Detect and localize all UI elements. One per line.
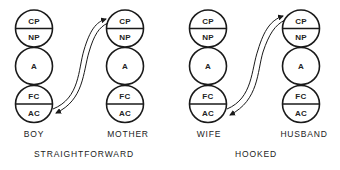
wife-np: NP — [202, 33, 214, 42]
ego-state-diagrams — [0, 0, 340, 170]
label-wife: WIFE — [197, 129, 221, 139]
husband-np: NP — [295, 33, 307, 42]
mother-cp: CP — [119, 17, 131, 26]
arrow-cp-to-ac — [230, 20, 285, 115]
arrow-ac-to-cp — [53, 19, 106, 109]
boy-np: NP — [28, 33, 40, 42]
label-boy: BOY — [24, 129, 44, 139]
arrow-ac-to-cp — [227, 16, 283, 109]
caption-hooked: HOOKED — [235, 149, 277, 159]
caption-straightforward: STRAIGHTFORWARD — [34, 149, 134, 159]
mother-ac: AC — [119, 109, 131, 118]
wife-ac: AC — [202, 109, 214, 118]
mother-np: NP — [119, 33, 131, 42]
label-husband: HUSBAND — [280, 129, 327, 139]
boy-cp: CP — [28, 17, 40, 26]
husband-a: A — [298, 62, 304, 71]
mother-a: A — [122, 62, 128, 71]
wife-fc: FC — [202, 92, 213, 101]
wife-a: A — [205, 62, 211, 71]
husband-ac: AC — [295, 109, 307, 118]
boy-a: A — [31, 62, 37, 71]
boy-ac: AC — [28, 109, 40, 118]
boy-fc: FC — [28, 92, 39, 101]
label-mother: MOTHER — [107, 129, 149, 139]
mother-fc: FC — [119, 92, 130, 101]
arrow-cp-to-ac — [56, 23, 108, 113]
husband-fc: FC — [295, 92, 306, 101]
wife-cp: CP — [202, 17, 214, 26]
husband-cp: CP — [295, 17, 307, 26]
